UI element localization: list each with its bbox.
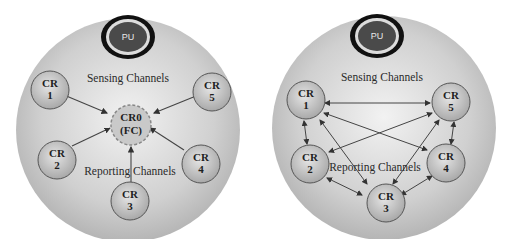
svg-text:CR: CR [42,77,59,89]
cr-node-3: CR 3 [367,184,405,222]
fusion-center: CR0 (FC) [111,105,151,145]
svg-text:2: 2 [307,163,313,175]
svg-text:CR: CR [443,89,460,101]
svg-text:CR0: CR0 [120,111,142,123]
reporting-channels-label: Reporting Channels [84,165,176,178]
primary-user: PU [101,15,155,59]
svg-text:CR: CR [378,190,395,202]
cr-node-5: CR 5 [432,83,470,121]
svg-text:CR: CR [193,151,210,163]
cr-node-1: CR 1 [31,71,69,109]
sensing-channels-label: Sensing Channels [341,71,424,84]
cr-node-5: CR 5 [193,73,231,111]
reporting-channels-label: Reporting Channels [329,161,421,174]
svg-text:CR: CR [122,188,139,200]
sensing-channels-label: Sensing Channels [87,72,170,85]
distributed-diagram: PU Sensing Channels CR 1 [272,14,496,239]
svg-text:5: 5 [448,101,454,113]
cr-node-3: CR 3 [111,182,149,220]
svg-text:4: 4 [198,163,204,175]
svg-text:2: 2 [54,159,60,171]
pu-label: PU [122,32,135,42]
primary-user: PU [350,14,404,58]
svg-text:(FC): (FC) [120,124,142,137]
pu-label: PU [371,31,384,41]
diagram-canvas: PU Sensing Channels CR0 (FC) CR 1 CR 2 [0,0,511,239]
cr-node-1: CR 1 [287,81,325,119]
svg-text:1: 1 [303,99,309,111]
svg-text:4: 4 [443,162,449,174]
svg-text:CR: CR [204,79,221,91]
svg-text:3: 3 [127,200,133,212]
cr-node-4: CR 4 [427,144,465,182]
svg-text:CR: CR [49,147,66,159]
cr-node-4: CR 4 [182,145,220,183]
svg-text:CR: CR [438,150,455,162]
svg-text:CR: CR [302,151,319,163]
svg-text:CR: CR [298,87,315,99]
cr-node-2: CR 2 [291,145,329,183]
svg-text:5: 5 [209,91,215,103]
centralized-diagram: PU Sensing Channels CR0 (FC) CR 1 CR 2 [16,15,240,239]
cr-node-2: CR 2 [38,141,76,179]
svg-text:3: 3 [383,202,389,214]
svg-text:1: 1 [47,89,53,101]
